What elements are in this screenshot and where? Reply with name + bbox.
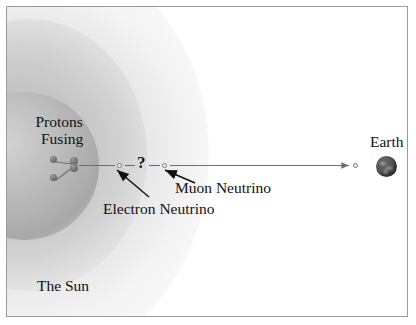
diagram-frame: Protons Fusing The Sun Earth Electron Ne… (6, 6, 408, 317)
earth-globe-icon (376, 156, 397, 177)
electron-neutrino-label: Electron Neutrino (103, 200, 214, 217)
protons-fusing-label: Protons Fusing (35, 113, 83, 148)
protons-fusing-line2: Fusing (35, 130, 83, 147)
electron-neutrino-node (117, 163, 122, 168)
proton-particle (50, 174, 57, 181)
electron-neutrino-leader-arrow (117, 170, 149, 197)
trajectory-overlay (7, 7, 408, 317)
earth-arrival-node (353, 163, 358, 168)
muon-neutrino-label: Muon Neutrino (175, 179, 271, 196)
fused-proton-particle (70, 164, 78, 172)
diagram-canvas: Protons Fusing The Sun Earth Electron Ne… (0, 0, 416, 325)
the-sun-label: The Sun (37, 277, 89, 294)
muon-neutrino-node (162, 163, 167, 168)
protons-fusing-line1: Protons (35, 113, 82, 130)
earth-label: Earth (370, 133, 404, 150)
question-mark-label: ? (137, 153, 146, 172)
proton-particle (50, 156, 57, 163)
